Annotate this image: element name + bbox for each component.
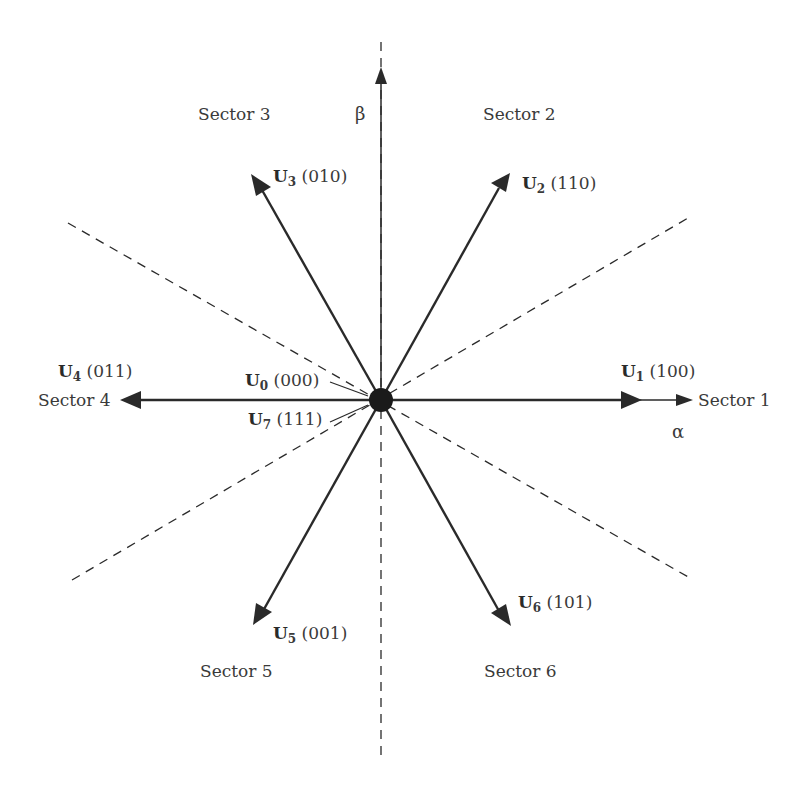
- vector-u3-arrow: [251, 174, 381, 400]
- alpha-axis: [640, 394, 693, 406]
- vector-u4-arrow: [120, 391, 381, 409]
- vector-u2-arrow: [381, 173, 510, 400]
- vector-u2-label: U2 (110): [522, 175, 596, 195]
- sector-1-label: Sector 1: [698, 392, 771, 409]
- beta-axis: [375, 67, 387, 400]
- vector-u1-label: U1 (100): [621, 363, 695, 383]
- vector-u0-label: U0 (000): [245, 372, 319, 392]
- space-vector-diagram: Sector 1 Sector 2 Sector 3 Sector 4 Sect…: [0, 0, 805, 787]
- sector-3-label: Sector 3: [198, 106, 271, 123]
- vector-u6-arrow: [381, 400, 511, 626]
- origin-zero-vector-dot: [369, 388, 393, 412]
- vector-u1-arrow: [381, 391, 642, 409]
- vector-u5-label: U5 (001): [273, 625, 347, 645]
- zero-vector-leaders: [330, 382, 368, 422]
- sector-4-label: Sector 4: [38, 392, 111, 409]
- vector-u5-arrow: [253, 400, 381, 625]
- vector-u4-label: U4 (011): [58, 363, 132, 383]
- vector-u6-label: U6 (101): [518, 594, 592, 614]
- sector-5-label: Sector 5: [200, 663, 273, 680]
- vector-u3-label: U3 (010): [273, 168, 347, 188]
- diagram-canvas: [0, 0, 805, 787]
- beta-axis-label: β: [355, 105, 365, 123]
- vector-u7-label: U7 (111): [248, 411, 322, 431]
- sector-2-label: Sector 2: [483, 106, 556, 123]
- alpha-axis-label: α: [672, 423, 684, 441]
- sector-6-label: Sector 6: [484, 663, 557, 680]
